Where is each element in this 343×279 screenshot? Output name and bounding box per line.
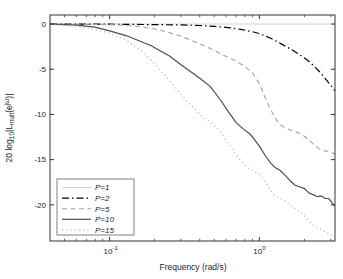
y-tick-label: 0 [42,20,47,29]
figure-background [0,0,343,279]
y-tick-label: -15 [34,155,46,164]
y-tick-label: -5 [39,65,47,74]
bode-magnitude-figure: 0-5-10-15-2010-1100 Frequency (rad/s) 20… [0,0,343,279]
chart-canvas: 0-5-10-15-2010-1100 Frequency (rad/s) 20… [0,0,343,279]
y-tick-label: -10 [34,110,46,119]
y-tick-label: -20 [34,201,46,210]
x-axis-label: Frequency (rad/s) [159,262,226,272]
legend-label: P=5 [95,205,110,214]
legend-label: P=10 [95,215,114,224]
legend: P=1P=2P=5P=10P=15 [57,179,134,235]
legend-label: P=1 [95,183,109,192]
legend-label: P=15 [95,226,114,235]
legend-label: P=2 [95,194,110,203]
